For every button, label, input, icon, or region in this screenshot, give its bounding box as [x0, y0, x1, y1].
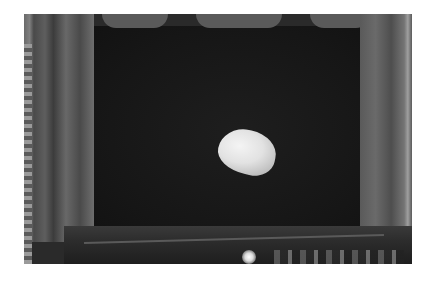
curtain-valance	[196, 14, 282, 28]
ornate-pillar	[24, 44, 32, 264]
right-curtain	[360, 14, 412, 226]
left-curtain	[24, 14, 94, 242]
curtain-valance	[102, 14, 168, 28]
theater-photo: Grayscale photograph of a theater stage …	[24, 14, 412, 264]
audience-silhouettes	[274, 250, 404, 264]
stage-light	[242, 250, 256, 264]
